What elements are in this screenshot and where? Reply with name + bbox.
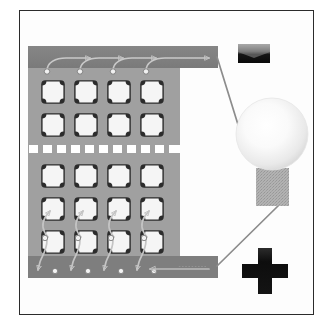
busbar-bottom	[28, 256, 218, 278]
solar-cell	[41, 113, 65, 137]
solar-cell	[140, 113, 164, 137]
solar-cell	[74, 164, 98, 188]
solar-cell	[74, 113, 98, 137]
circuit-illustration: − + Solar photovoltaic module wired to a…	[0, 0, 334, 329]
solar-cell	[140, 164, 164, 188]
solar-cell	[41, 80, 65, 104]
light-bulb	[236, 98, 308, 206]
negative-terminal-marker	[238, 44, 270, 63]
solar-cell	[107, 164, 131, 188]
solar-panel	[28, 46, 218, 278]
bulb-base-label: screw base	[2, 56, 83, 73]
positive-terminal-marker	[242, 248, 288, 294]
solar-cell	[107, 80, 131, 104]
bulb-base	[256, 168, 289, 206]
solar-cell	[41, 164, 65, 188]
solar-cell	[140, 80, 164, 104]
dashed-separator	[29, 145, 180, 153]
diagram-canvas: − + Solar photovoltaic module wired to a…	[0, 0, 334, 329]
bulb-glass	[236, 98, 308, 170]
solar-cell	[107, 113, 131, 137]
solar-cell	[74, 80, 98, 104]
